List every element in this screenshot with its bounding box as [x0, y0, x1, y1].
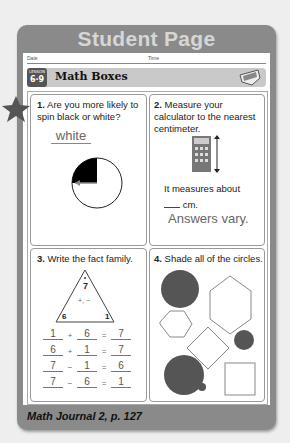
- date-label: Date: [27, 55, 38, 61]
- lesson-badge: LESSON 6·9: [27, 68, 47, 87]
- math-box-3: 3. Write the fact family. 7 +, − 6 1 1+6…: [30, 248, 147, 402]
- spinner: [71, 157, 123, 209]
- worksheet-page: Date Time LESSON 6·9 Math Boxes 1. Are y…: [23, 53, 270, 405]
- equation-2: 6+1=7: [43, 345, 131, 356]
- math-box-1: 1. Are you more likely to spin black or …: [30, 94, 147, 246]
- answer-1: white: [51, 128, 91, 144]
- equation-4: 7−6=1: [43, 377, 131, 388]
- section-title: Math Boxes: [55, 70, 128, 83]
- lesson-number: 6·9: [27, 75, 47, 85]
- question-2: 2. Measure your calculator to the neares…: [154, 99, 262, 135]
- shapes-figure: [150, 267, 264, 399]
- calculator-icon: [192, 135, 222, 173]
- star-icon: [1, 95, 31, 123]
- time-label: Time: [148, 55, 159, 61]
- question-3: 3. Write the fact family.: [37, 253, 133, 265]
- math-boxes-grid: 1. Are you more likely to spin black or …: [27, 91, 268, 405]
- triangle-left: 6: [62, 311, 66, 323]
- equation-1: 1+6=7: [43, 329, 131, 340]
- measure-text: It measures about: [164, 183, 240, 195]
- page-title: Student Page: [17, 27, 276, 51]
- student-page-panel: Student Page Date Time LESSON 6·9 Math B…: [17, 25, 276, 430]
- answer-2: Answers vary.: [168, 211, 249, 226]
- lesson-header: LESSON 6·9 Math Boxes: [27, 68, 266, 87]
- equation-3: 7−1=6: [43, 361, 131, 372]
- triangle-ops: +, −: [78, 295, 90, 307]
- question-4: 4. Shade all of the circles.: [154, 253, 263, 265]
- footer-reference: Math Journal 2, p. 127: [27, 410, 142, 422]
- cm-blank: cm.: [164, 199, 198, 211]
- triangle-right: 1: [105, 311, 109, 323]
- date-rule: [27, 63, 266, 64]
- math-box-2: 2. Measure your calculator to the neares…: [149, 94, 265, 246]
- question-1: 1. Are you more likely to spin black or …: [37, 99, 145, 123]
- math-boxes-icon: [238, 69, 262, 86]
- triangle-top: 7: [83, 280, 88, 292]
- math-box-4: 4. Shade all of the circles.: [149, 248, 265, 402]
